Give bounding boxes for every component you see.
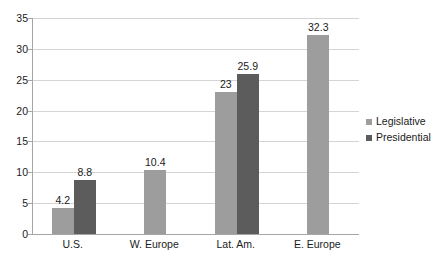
bar-group: 10.4 bbox=[115, 18, 197, 234]
legend-swatch-icon bbox=[366, 119, 372, 125]
bar-column[interactable]: 4.2 bbox=[52, 18, 74, 234]
legend-label: Presidential bbox=[376, 132, 431, 143]
legend-item[interactable]: Legislative bbox=[366, 116, 431, 127]
x-axis: U.S.W. EuropeLat. Am.E. Europe bbox=[32, 238, 358, 256]
bar[interactable] bbox=[215, 92, 237, 234]
bar-value-label: 25.9 bbox=[228, 61, 268, 72]
bar-group: 32.3 bbox=[278, 18, 360, 234]
bar-column[interactable]: 10.4 bbox=[144, 18, 166, 234]
plot-area: 4.28.810.42325.932.3 bbox=[32, 18, 359, 235]
legend-label: Legislative bbox=[376, 116, 426, 127]
bar-column[interactable]: 32.3 bbox=[307, 18, 329, 234]
x-axis-tick-label: W. Europe bbox=[130, 238, 179, 250]
x-axis-tick-label: E. Europe bbox=[294, 238, 341, 250]
legend: LegislativePresidential bbox=[366, 116, 431, 143]
bar[interactable] bbox=[74, 180, 96, 234]
bar-chart: 05101520253035 4.28.810.42325.932.3 U.S.… bbox=[0, 0, 440, 264]
legend-swatch-icon bbox=[366, 135, 372, 141]
legend-item[interactable]: Presidential bbox=[366, 132, 431, 143]
bar-column[interactable]: 25.9 bbox=[237, 18, 259, 234]
bar-value-label: 32.3 bbox=[298, 22, 338, 33]
x-axis-tick-label: Lat. Am. bbox=[216, 238, 255, 250]
bar-value-label: 10.4 bbox=[135, 157, 175, 168]
bar-column[interactable]: 23 bbox=[215, 18, 237, 234]
bar-value-label: 8.8 bbox=[65, 167, 105, 178]
bar[interactable] bbox=[237, 74, 259, 234]
bar[interactable] bbox=[52, 208, 74, 234]
bar-group: 4.28.8 bbox=[33, 18, 115, 234]
y-axis-tick-marks bbox=[0, 18, 34, 234]
bar-group: 2325.9 bbox=[196, 18, 278, 234]
bar[interactable] bbox=[144, 170, 166, 234]
x-axis-tick-label: U.S. bbox=[63, 238, 83, 250]
bar-column[interactable]: 8.8 bbox=[74, 18, 96, 234]
bar[interactable] bbox=[307, 35, 329, 234]
